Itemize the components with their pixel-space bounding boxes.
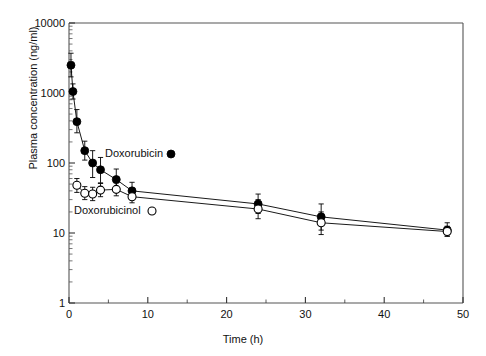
data-point-open-circle	[128, 193, 136, 201]
data-point-open-circle	[97, 186, 105, 194]
data-point-open-circle	[89, 190, 97, 198]
x-ticks	[69, 297, 463, 303]
pk-figure: 10000 1000 100 10 1 01020304050 Doxorubi…	[0, 0, 486, 356]
x-tick-label: 10	[142, 308, 154, 320]
y-tick-label: 100	[47, 157, 65, 169]
doxorubicinol-legend-marker	[148, 207, 156, 215]
data-point-open-circle	[254, 205, 262, 213]
data-point-filled-circle	[73, 118, 81, 126]
x-tick-label: 0	[66, 308, 72, 320]
x-tick-label: 20	[220, 308, 232, 320]
data-point-open-circle	[81, 189, 89, 197]
x-tick-label: 40	[378, 308, 390, 320]
data-point-filled-circle	[97, 166, 105, 174]
x-axis-label: Time (h)	[0, 333, 486, 345]
data-point-open-circle	[317, 219, 325, 227]
data-point-open-circle	[112, 185, 120, 193]
plot-canvas: 10000 1000 100 10 1 01020304050 Doxorubi…	[0, 0, 486, 356]
x-tick-label: 30	[299, 308, 311, 320]
data-point-open-circle	[443, 228, 451, 236]
y-tick-label: 10	[53, 227, 65, 239]
data-point-filled-circle	[81, 147, 89, 155]
doxorubicin-legend-label: Doxorubicin	[105, 147, 163, 159]
data-point-filled-circle	[112, 176, 120, 184]
x-tick-labels: 01020304050	[66, 308, 469, 320]
doxorubicinol-legend-label: Doxorubicinol	[74, 204, 141, 216]
data-point-filled-circle	[67, 61, 75, 69]
data-point-filled-circle	[69, 88, 77, 96]
data-point-filled-circle	[89, 159, 97, 167]
x-tick-label: 50	[457, 308, 469, 320]
y-tick-label: 1	[59, 297, 65, 309]
axis-frame	[69, 23, 463, 303]
y-axis-label: Plasma concentration (ng/ml)	[27, 3, 39, 193]
y-tick-label: 1000	[41, 87, 65, 99]
data-point-open-circle	[73, 181, 81, 189]
doxorubicin-legend-marker	[167, 150, 175, 158]
